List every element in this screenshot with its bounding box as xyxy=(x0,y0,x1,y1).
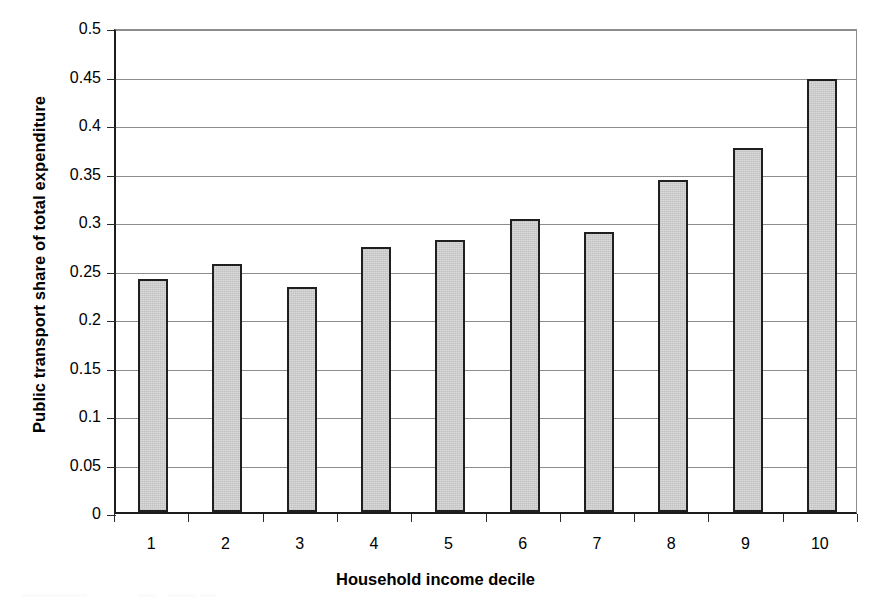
y-axis-tick xyxy=(107,176,116,177)
x-axis-tick-label: 9 xyxy=(716,536,776,552)
bar xyxy=(584,232,614,512)
x-axis-tick xyxy=(337,514,338,522)
x-axis-tick xyxy=(560,514,561,522)
y-axis-tick-label: 0.25 xyxy=(45,264,101,280)
y-axis-tick-label: 0.3 xyxy=(45,215,101,231)
x-axis-tick xyxy=(486,514,487,522)
bar xyxy=(510,219,540,512)
y-axis-tick xyxy=(107,321,116,322)
x-axis-tick xyxy=(857,514,858,522)
bar xyxy=(807,79,837,512)
x-axis-tick-label: 4 xyxy=(344,536,404,552)
y-axis-tick-label: 0.35 xyxy=(45,167,101,183)
y-axis-tick xyxy=(107,273,116,274)
plot-area xyxy=(114,29,857,514)
bar xyxy=(733,148,763,512)
x-axis-tick-label: 5 xyxy=(418,536,478,552)
y-axis-tick xyxy=(107,224,116,225)
y-axis-tick-label: 0.05 xyxy=(45,458,101,474)
x-axis-title: Household income decile xyxy=(0,570,871,589)
y-axis-tick-label: 0.45 xyxy=(45,70,101,86)
x-axis-tick-label: 10 xyxy=(790,536,850,552)
x-axis-tick xyxy=(634,514,635,522)
x-axis-tick xyxy=(411,514,412,522)
x-axis-tick-label: 8 xyxy=(641,536,701,552)
scan-artifact xyxy=(200,594,216,597)
bar-chart-figure: Public transport share of total expendit… xyxy=(0,0,871,599)
gridline xyxy=(116,127,856,128)
gridline xyxy=(116,79,856,80)
y-axis-tick xyxy=(107,30,116,31)
y-axis-tick-label: 0.5 xyxy=(45,21,101,37)
bar xyxy=(287,287,317,512)
scan-artifact xyxy=(168,594,196,597)
y-axis-tick-label: 0.15 xyxy=(45,361,101,377)
y-axis-tick-label: 0.1 xyxy=(45,409,101,425)
y-axis-tick-label: 0.2 xyxy=(45,312,101,328)
scan-artifact xyxy=(22,594,87,597)
bar xyxy=(658,180,688,512)
x-axis-tick xyxy=(114,514,115,522)
bar xyxy=(212,264,242,512)
y-axis-tick-label: 0.4 xyxy=(45,118,101,134)
y-axis-tick xyxy=(107,370,116,371)
y-axis-tick xyxy=(107,418,116,419)
bar xyxy=(435,240,465,512)
x-axis-tick-label: 6 xyxy=(493,536,553,552)
y-axis-tick xyxy=(107,467,116,468)
x-axis-tick xyxy=(783,514,784,522)
gridline xyxy=(116,30,856,31)
bar xyxy=(138,279,168,512)
x-axis-tick xyxy=(708,514,709,522)
x-axis-tick-label: 1 xyxy=(121,536,181,552)
x-axis-tick xyxy=(188,514,189,522)
scan-artifact xyxy=(138,594,156,597)
y-axis-tick xyxy=(107,79,116,80)
x-axis-tick-label: 7 xyxy=(567,536,627,552)
bar xyxy=(361,247,391,512)
x-axis-tick xyxy=(263,514,264,522)
x-axis-tick-label: 2 xyxy=(195,536,255,552)
y-axis-tick-label: 0 xyxy=(45,506,101,522)
x-axis-tick-label: 3 xyxy=(270,536,330,552)
y-axis-tick xyxy=(107,127,116,128)
